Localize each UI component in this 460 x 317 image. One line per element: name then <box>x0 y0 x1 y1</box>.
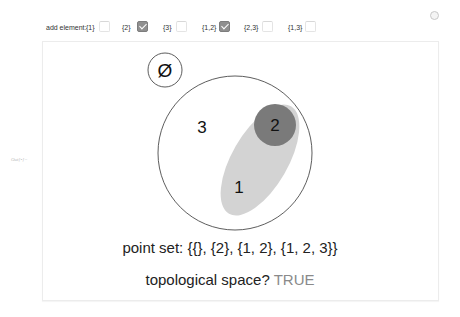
set-2-circle: 2 <box>254 104 296 146</box>
empty-set-symbol: Ø <box>158 60 173 81</box>
region-label-3: 3 <box>197 118 206 137</box>
region-label-2: 2 <box>270 116 279 135</box>
topological-space-label: topological space? <box>145 271 269 288</box>
topological-space-line: topological space? TRUE <box>0 271 460 288</box>
region-label-1: 1 <box>234 178 243 197</box>
empty-set-circle: Ø <box>148 53 182 87</box>
point-set-value: {{}, {2}, {1, 2}, {1, 2, 3}} <box>187 239 337 256</box>
topology-diagram: Ø 3 1 2 <box>0 0 460 317</box>
topological-space-value: TRUE <box>274 271 315 288</box>
point-set-line: point set: {{}, {2}, {1, 2}, {1, 2, 3}} <box>0 239 460 256</box>
point-set-label: point set: <box>122 239 183 256</box>
